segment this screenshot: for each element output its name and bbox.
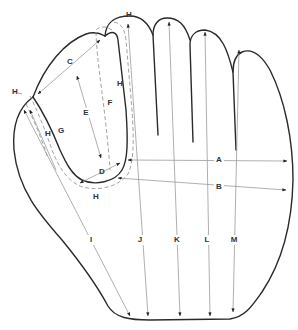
label-L: L — [205, 235, 210, 244]
glove-diagram: A B C D E F G H H H H H I J K L M — [0, 0, 298, 330]
measure-C — [38, 40, 100, 94]
measure-L — [205, 32, 210, 316]
label-H-bottom: H — [93, 192, 99, 201]
label-C: C — [67, 57, 73, 66]
label-H-top: H — [126, 10, 132, 19]
measure-B — [118, 178, 286, 190]
label-K: K — [174, 235, 180, 244]
labels: A B C D E F G H H H H H I J K L M — [12, 10, 240, 245]
label-A: A — [216, 155, 222, 164]
label-H-left: H — [12, 87, 18, 96]
measurement-lines — [24, 22, 287, 316]
label-D: D — [99, 167, 105, 176]
label-F: F — [108, 98, 113, 107]
measure-J — [128, 24, 148, 316]
label-G: G — [58, 126, 64, 135]
measure-K — [169, 22, 180, 316]
label-B: B — [216, 182, 222, 191]
label-E: E — [83, 108, 89, 117]
measure-H-thumb — [30, 110, 56, 170]
label-H-thumb-inner: H — [45, 129, 51, 138]
dashed-guides — [14, 22, 133, 189]
label-M: M — [231, 235, 238, 244]
label-I: I — [90, 235, 92, 244]
label-J: J — [138, 235, 142, 244]
label-H-index: H — [117, 79, 123, 88]
